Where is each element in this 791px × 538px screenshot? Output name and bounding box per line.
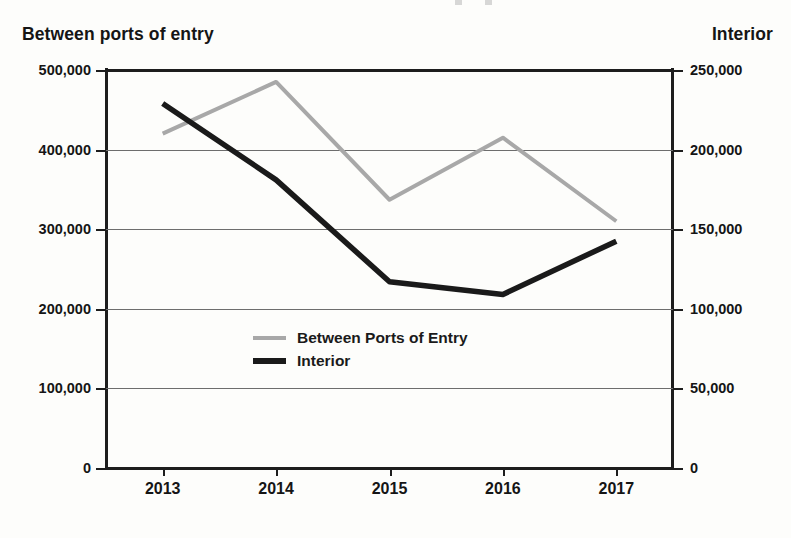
legend-item-between-ports-of-entry: Between Ports of Entry: [253, 326, 468, 349]
legend-swatch-icon: [253, 358, 286, 364]
x-axis-tick: [390, 468, 392, 476]
right-tick-label: 200,000: [690, 143, 742, 158]
legend-swatch-icon: [253, 336, 286, 340]
left-tick-label: 400,000: [39, 143, 91, 158]
right-tick-label: 50,000: [690, 381, 734, 396]
legend-label: Interior: [297, 352, 350, 370]
left-tick-label: 200,000: [39, 302, 91, 317]
right-tick-label: 100,000: [690, 302, 742, 317]
legend-label: Between Ports of Entry: [297, 329, 468, 347]
left-tick-label: 100,000: [39, 381, 91, 396]
axis-tick: [674, 70, 683, 72]
x-tick-label: 2017: [599, 480, 635, 498]
legend-item-interior: Interior: [253, 349, 468, 372]
right-tick-label: 250,000: [690, 63, 742, 78]
scan-artifact: [455, 0, 545, 6]
axis-tick: [96, 70, 105, 72]
axis-tick: [674, 150, 683, 152]
axis-tick: [674, 468, 683, 470]
axis-tick: [96, 229, 105, 231]
left-tick-label: 300,000: [39, 222, 91, 237]
x-tick-label: 2015: [372, 480, 408, 498]
axis-tick: [96, 388, 105, 390]
left-tick-label: 500,000: [39, 63, 91, 78]
line-chart: Between ports of entry Interior 500,0004…: [0, 0, 791, 538]
axis-tick: [674, 229, 683, 231]
axis-tick: [96, 468, 105, 470]
plot-area: [106, 70, 673, 468]
chart-legend: Between Ports of Entry Interior: [253, 326, 468, 372]
x-axis-tick: [616, 468, 618, 476]
axis-tick: [674, 309, 683, 311]
right-tick-label: 150,000: [690, 222, 742, 237]
left-tick-label: 0: [83, 461, 91, 476]
x-tick-label: 2014: [258, 480, 294, 498]
right-axis-tick-labels: 250,000200,000150,000100,00050,0000: [690, 0, 791, 538]
x-axis-tick: [276, 468, 278, 476]
x-tick-label: 2013: [145, 480, 181, 498]
axis-tick: [96, 309, 105, 311]
right-tick-label: 0: [690, 461, 698, 476]
axis-tick: [96, 150, 105, 152]
x-axis-tick: [503, 468, 505, 476]
x-axis-tick: [163, 468, 165, 476]
series-lines: [106, 70, 673, 468]
axis-tick: [674, 388, 683, 390]
x-tick-label: 2016: [485, 480, 521, 498]
left-axis-tick-labels: 500,000400,000300,000200,000100,0000: [0, 0, 91, 538]
